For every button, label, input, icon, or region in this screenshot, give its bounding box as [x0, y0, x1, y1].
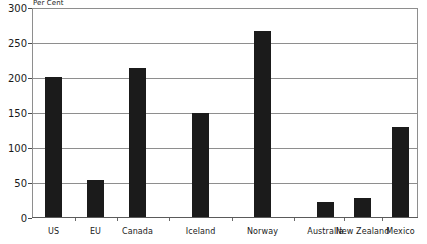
gridline	[32, 43, 418, 44]
x-axis-tick-label: Canada	[122, 227, 153, 236]
x-axis-tick	[117, 218, 118, 221]
y-axis-tick-label: 200	[8, 73, 27, 84]
bar	[45, 77, 62, 217]
y-axis-tick-label: 250	[8, 38, 27, 49]
x-axis-tick-label: Norway	[247, 227, 278, 236]
axis-unit-caption: Per Cent	[33, 0, 64, 7]
y-axis-tick-label: 100	[8, 143, 27, 154]
bar	[354, 198, 371, 217]
x-axis-tick-label: US	[48, 227, 59, 236]
bar	[254, 31, 271, 217]
y-axis-tick	[28, 8, 32, 9]
bar	[129, 68, 146, 217]
gridline	[32, 78, 418, 79]
y-axis-tick-label: 50	[14, 178, 27, 189]
y-axis-tick	[28, 148, 32, 149]
y-axis-tick-label: 300	[8, 3, 27, 14]
bar	[87, 180, 104, 217]
y-axis-tick	[28, 218, 32, 219]
x-axis-tick-label: EU	[90, 227, 101, 236]
bar	[392, 127, 409, 217]
x-axis-tick	[75, 218, 76, 221]
y-axis-tick	[28, 183, 32, 184]
gridline	[32, 113, 418, 114]
x-axis-tick	[382, 218, 383, 221]
gridline	[32, 148, 418, 149]
y-axis-tick	[28, 113, 32, 114]
x-axis-tick-label: Mexico	[386, 227, 415, 236]
y-axis-tick-label: 150	[8, 108, 27, 119]
x-axis-tick	[294, 218, 295, 221]
plot-area	[32, 8, 418, 218]
y-axis-tick-label: 0	[21, 213, 27, 224]
y-axis-tick	[28, 78, 32, 79]
bar	[192, 113, 209, 217]
x-axis-tick-label: Iceland	[186, 227, 216, 236]
x-axis-tick	[169, 218, 170, 221]
x-axis-tick-label: New Zealand	[336, 227, 390, 236]
x-axis-line	[32, 217, 418, 218]
x-axis-tick	[344, 218, 345, 221]
y-axis-tick	[28, 43, 32, 44]
bar	[317, 202, 334, 217]
gridline	[32, 8, 418, 9]
x-axis-tick	[232, 218, 233, 221]
bar-chart: Per Cent 050100150200250300 USEUCanadaIc…	[0, 0, 427, 244]
